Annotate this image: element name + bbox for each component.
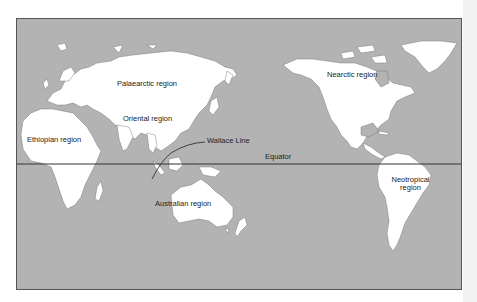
central-america [363, 143, 385, 159]
label-neotropical-line2: region [388, 184, 433, 192]
label-ethiopian-region: Ethiopian region [27, 136, 81, 144]
label-neotropical-region: Neotropical region [388, 176, 433, 193]
madagascar [95, 181, 103, 201]
svalbard [57, 43, 67, 51]
label-oriental-region: Oriental region [123, 115, 172, 123]
south-america-landmass [377, 153, 431, 251]
caribbean-islands [379, 131, 389, 135]
world-map-graphic [17, 19, 462, 290]
africa-landmass [21, 109, 101, 209]
label-nearctic-region: Nearctic region [327, 71, 377, 79]
novaya-zemlya [113, 45, 123, 53]
label-wallace-line: Wallace Line [207, 137, 250, 145]
severnaya [147, 45, 157, 49]
label-palaearctic-region: Palaearctic region [117, 80, 177, 88]
world-map-frame [16, 18, 462, 290]
label-australian-region: Australian region [155, 200, 211, 208]
arctic-islands-3 [371, 55, 387, 63]
greenland [401, 41, 457, 73]
new-zealand [235, 217, 247, 237]
arctic-islands-1 [341, 51, 355, 59]
page-edge-shadow [463, 0, 477, 302]
japan [209, 97, 219, 115]
tasmania [225, 229, 229, 233]
new-guinea [199, 167, 221, 177]
british-isles [43, 79, 49, 89]
arctic-islands-2 [357, 45, 375, 53]
label-equator: Equator [265, 153, 291, 161]
